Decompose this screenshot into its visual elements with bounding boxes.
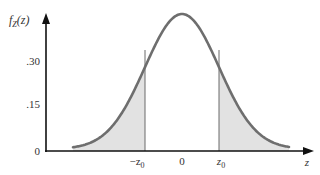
y-tick-label: .15: [26, 98, 40, 110]
x-axis-arrow-icon: [303, 147, 314, 155]
x-tick-label-z0: z0: [216, 155, 225, 170]
x-tick-label-neg-z0: −z0: [129, 155, 144, 170]
x-axis-title: z: [304, 156, 310, 168]
density-curve: [73, 14, 289, 147]
y-tick-label: 0: [35, 145, 41, 157]
x-tick-label-zero: 0: [179, 155, 185, 167]
y-tick-label: .30: [26, 55, 40, 67]
y-axis-title: fZ(z): [9, 13, 29, 29]
shaded-right-tail: [219, 67, 289, 151]
y-axis-arrow-icon: [42, 13, 50, 24]
normal-density-chart: fZ(z) .30 .15 0 −z0 0 z0 z: [0, 0, 320, 175]
shaded-left-tail: [73, 67, 145, 151]
